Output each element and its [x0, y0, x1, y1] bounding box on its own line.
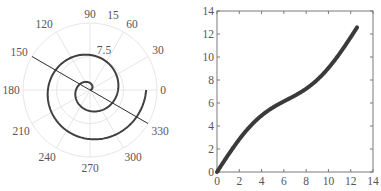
- angle-label: 150: [10, 46, 28, 58]
- angle-label: 90: [84, 8, 96, 20]
- x-tick-label: 8: [303, 175, 309, 187]
- radial-label: 7.5: [97, 44, 112, 56]
- y-tick-label: 12: [203, 28, 215, 40]
- cartesian-plot: 02468101214 02468101214: [203, 5, 380, 187]
- angle-label: 180: [2, 84, 20, 96]
- angle-label: 240: [38, 151, 56, 163]
- x-tick-labels: 02468101214: [214, 175, 379, 187]
- x-tick-label: 4: [259, 175, 265, 187]
- figure: 0306090120150180210240270300330 157.5 02…: [0, 0, 381, 191]
- x-tick-label: 12: [345, 175, 357, 187]
- x-tick-label: 0: [214, 175, 220, 187]
- angle-label: 30: [152, 44, 164, 56]
- y-tick-label: 8: [208, 74, 214, 86]
- spiral-series: [48, 55, 146, 140]
- x-tick-label: 10: [323, 175, 335, 187]
- polar-plot: 0306090120150180210240270300330 157.5: [2, 8, 169, 174]
- x-tick-label: 14: [367, 175, 379, 187]
- y-tick-label: 2: [208, 143, 214, 155]
- angle-label: 0: [160, 84, 166, 96]
- angle-label: 270: [81, 162, 99, 174]
- angle-label: 330: [151, 125, 169, 137]
- x-tick-label: 2: [236, 175, 242, 187]
- curve-series: [217, 27, 357, 172]
- angle-label: 60: [126, 18, 138, 30]
- x-tick-label: 6: [281, 175, 287, 187]
- radial-label: 15: [107, 9, 119, 21]
- axes-box: [217, 11, 373, 172]
- angle-label: 300: [124, 151, 142, 163]
- angle-label: 210: [12, 125, 30, 137]
- y-tick-label: 4: [208, 120, 214, 132]
- y-tick-label: 0: [208, 166, 214, 178]
- polar-radial-labels: 157.5: [97, 9, 119, 56]
- y-tick-label: 10: [203, 51, 215, 63]
- polar-angle-labels: 0306090120150180210240270300330: [2, 8, 169, 174]
- y-tick-labels: 02468101214: [203, 5, 215, 178]
- y-tick-label: 14: [203, 5, 215, 17]
- axis-ticks: [217, 11, 373, 172]
- angle-label: 120: [35, 18, 53, 30]
- y-tick-label: 6: [208, 97, 214, 109]
